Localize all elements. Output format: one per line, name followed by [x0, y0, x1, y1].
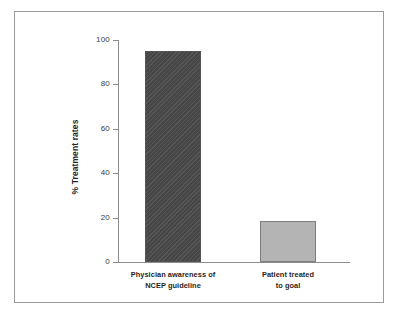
x-axis-label-physician-awareness: Physician awareness of NCEP guideline — [113, 270, 233, 291]
x-axis-label-patient-treated: Patient treated to goal — [233, 270, 343, 291]
figure: % Treatment rates 100 80 60 40 20 0 Phys… — [0, 0, 404, 315]
plot-area: % Treatment rates 100 80 60 40 20 0 Phys… — [0, 0, 404, 315]
y-axis-title-text: % Treatment rates — [70, 120, 80, 195]
y-tick-label-100: 100 — [96, 36, 110, 44]
x-axis-line — [118, 262, 350, 263]
y-tick-label-40: 40 — [101, 169, 110, 177]
y-tick-label-80: 80 — [101, 80, 110, 88]
x-axis-label-0-line-1: NCEP guideline — [113, 281, 233, 292]
y-tick-label-0: 0 — [105, 258, 110, 266]
x-axis-label-1-line-0: Patient treated — [233, 270, 343, 281]
bar-patient-treated-to-goal — [260, 221, 316, 262]
y-axis-line — [118, 40, 119, 263]
x-axis-label-1-line-1: to goal — [233, 281, 343, 292]
x-axis-label-0-line-0: Physician awareness of — [113, 270, 233, 281]
bar-physician-awareness — [145, 51, 201, 262]
y-axis-title: % Treatment rates — [68, 102, 82, 212]
y-tick-label-20: 20 — [101, 214, 110, 222]
y-tick-label-60: 60 — [101, 125, 110, 133]
